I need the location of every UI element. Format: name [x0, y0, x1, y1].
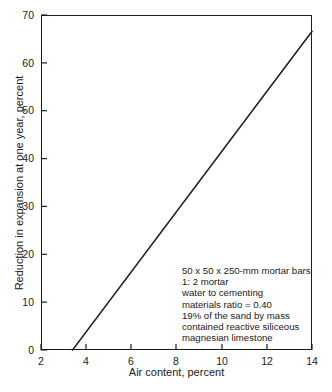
- y-tick-label-0: 0: [0, 345, 34, 356]
- x-tick-label-4: 4: [71, 356, 101, 367]
- x-axis-title: Air content, percent: [41, 366, 312, 378]
- chart-annotation: 50 x 50 x 250-mm mortar bars 1: 2 mortar…: [182, 265, 311, 343]
- x-tick-label-14: 14: [297, 356, 327, 367]
- y-axis-title: Reduction in expansion at one year, perc…: [13, 63, 25, 303]
- x-tick-label-10: 10: [207, 356, 237, 367]
- y-tick-label-70: 70: [0, 10, 34, 21]
- annotation-line-4: materials ratio = 0.40: [182, 299, 311, 310]
- annotation-line-6: contained reactive siliceous: [182, 321, 311, 332]
- x-tick-label-12: 12: [252, 356, 282, 367]
- annotation-line-5: 19% of the sand by mass: [182, 310, 311, 321]
- annotation-line-3: water to cementing: [182, 287, 311, 298]
- x-tick-label-6: 6: [116, 356, 146, 367]
- x-tick-label-2: 2: [26, 356, 56, 367]
- annotation-line-7: magnesian limestone: [182, 332, 311, 343]
- annotation-line-1: 50 x 50 x 250-mm mortar bars: [182, 265, 311, 276]
- x-tick-label-8: 8: [161, 356, 191, 367]
- y-axis-ticks: [41, 15, 47, 350]
- x-axis-ticks: [41, 344, 312, 350]
- annotation-line-2: 1: 2 mortar: [182, 276, 311, 287]
- chart-figure: 0 10 20 30 40 50 60 70 2 4 6 8 10 12 14 …: [0, 0, 332, 392]
